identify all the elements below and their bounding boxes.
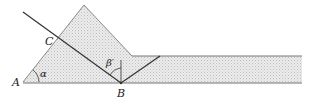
label-beta-prime: β′ (105, 57, 115, 68)
label-alpha: α (40, 68, 47, 79)
diagram-canvas: A B C α β′ (0, 0, 317, 100)
medium-fill (23, 5, 302, 83)
label-c: C (45, 35, 54, 48)
prism-and-slab (23, 5, 302, 83)
label-b: B (116, 87, 125, 100)
label-a: A (11, 76, 20, 89)
point-b-dot (120, 82, 122, 84)
